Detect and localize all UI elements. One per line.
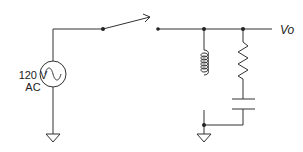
junction-dot [202, 27, 206, 31]
ground-left-icon [46, 134, 60, 142]
capacitor-icon [204, 99, 255, 125]
junction-dot [241, 27, 245, 31]
source-voltage-label: 120 V [16, 69, 50, 81]
output-voltage-label: Vo [280, 23, 294, 37]
ground-right-icon [197, 134, 211, 142]
source-label: 120 V AC [16, 69, 50, 93]
wire-source-top [53, 29, 103, 61]
resistor-icon [238, 29, 248, 99]
source-type-label: AC [16, 81, 50, 93]
junction-dot [101, 27, 105, 31]
inductor-icon [201, 29, 209, 134]
junction-dot [202, 123, 206, 127]
switch-icon [103, 14, 150, 29]
switch-contact-dot [156, 27, 160, 31]
